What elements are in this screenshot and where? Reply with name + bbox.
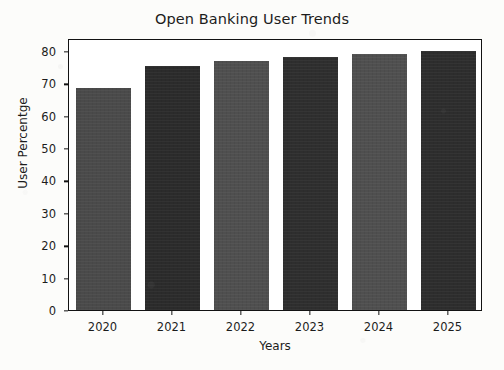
x-tick-mark (309, 311, 310, 315)
x-tick-mark (447, 311, 448, 315)
x-tick-mark (171, 311, 172, 315)
y-tick-label: 20 (41, 239, 56, 253)
x-tick-label-2021: 2021 (157, 320, 186, 334)
y-tick-label: 30 (41, 207, 56, 221)
x-tick-mark (378, 311, 379, 315)
y-tick-label: 40 (41, 174, 56, 188)
x-tick-label-2020: 2020 (88, 320, 117, 334)
y-tick-label: 60 (41, 110, 56, 124)
bar-2021 (145, 66, 200, 310)
bar-2023 (283, 57, 338, 310)
y-tick-label: 10 (41, 272, 56, 286)
bar-2024 (352, 54, 407, 310)
y-axis-ticks: 01020304050607080 (0, 39, 68, 311)
bar-2025 (421, 51, 476, 310)
bar-chart-figure: Open Banking User Trends 010203040506070… (0, 0, 504, 370)
y-axis-label: User Percentge (16, 33, 30, 253)
plot-area (68, 39, 482, 311)
bar-2020 (76, 88, 131, 310)
chart-title: Open Banking User Trends (0, 11, 504, 27)
y-tick-label: 50 (41, 142, 56, 156)
bars-layer (69, 40, 481, 310)
x-tick-label-2023: 2023 (295, 320, 324, 334)
y-tick-label: 0 (49, 304, 56, 318)
bar-2022 (214, 61, 269, 310)
x-tick-label-2024: 2024 (364, 320, 393, 334)
x-tick-mark (240, 311, 241, 315)
x-tick-mark (102, 311, 103, 315)
x-tick-label-2025: 2025 (433, 320, 462, 334)
y-tick-label: 70 (41, 77, 56, 91)
x-axis-label: Years (68, 339, 482, 353)
x-tick-label-2022: 2022 (226, 320, 255, 334)
y-tick-label: 80 (41, 45, 56, 59)
